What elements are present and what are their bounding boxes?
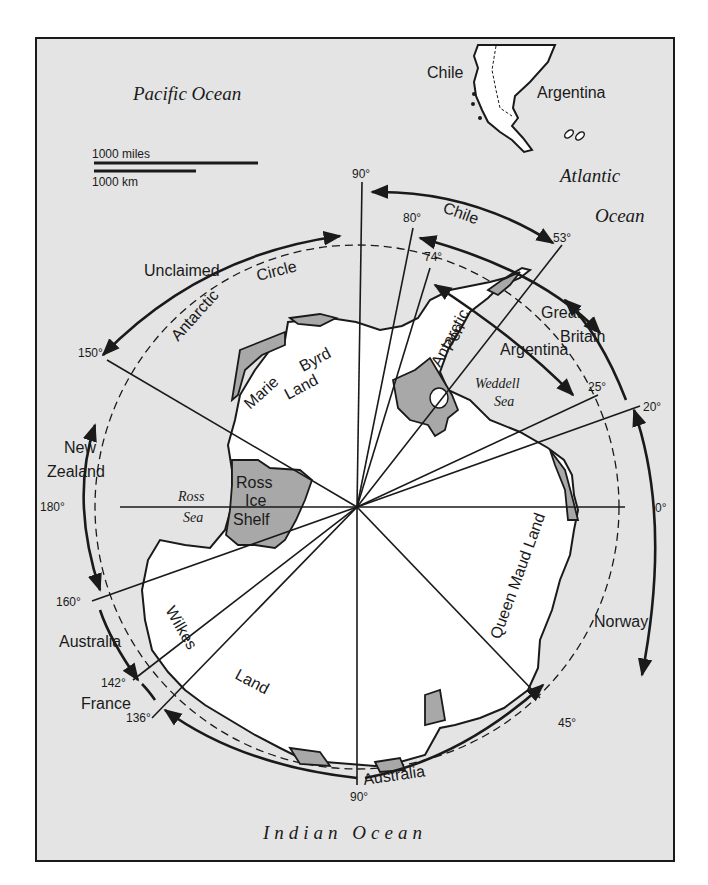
meridian-150-label: 150° bbox=[78, 346, 103, 360]
meridian-0-label: 0° bbox=[655, 501, 667, 515]
indian-ocean-label: Indian Ocean bbox=[262, 822, 427, 843]
ross-sea-label-1: Ross bbox=[177, 489, 205, 504]
meridian-25-label: 25° bbox=[588, 380, 606, 394]
scale-miles-label: 1000 miles bbox=[92, 147, 150, 161]
meridian-80-label: 80° bbox=[403, 211, 421, 225]
claim-new-zealand-label-2: Zealand bbox=[47, 463, 105, 480]
claim-argentina-label: Argentina bbox=[500, 341, 569, 358]
weddell-sea-label-1: Weddell bbox=[475, 376, 520, 391]
atlantic-ocean-label-2: Ocean bbox=[595, 205, 645, 226]
scale-km-label: 1000 km bbox=[92, 175, 138, 189]
antarctic-circle-label-2: Circle bbox=[255, 257, 299, 283]
meridian-160-label: 160° bbox=[56, 595, 81, 609]
ross-sea-label-2: Sea bbox=[183, 510, 203, 525]
meridian-180-label: 180° bbox=[40, 500, 65, 514]
claim-unclaimed-label: Unclaimed bbox=[144, 262, 220, 279]
weddell-sea-label-2: Sea bbox=[494, 394, 514, 409]
meridian-20-label: 20° bbox=[643, 400, 661, 414]
meridian-136-label: 136° bbox=[126, 711, 151, 725]
claim-chile-label: Chile bbox=[441, 199, 481, 227]
claim-great-britain-label-1: Great bbox=[541, 304, 582, 321]
claim-australia-west-label: Australia bbox=[59, 633, 121, 650]
meridian-74-label: 74° bbox=[424, 250, 442, 264]
antarctica-claims-map: 1000 miles 1000 km Pacific Ocean Atlanti… bbox=[0, 0, 708, 885]
meridian-53-label: 53° bbox=[553, 231, 571, 245]
atlantic-ocean-label-1: Atlantic bbox=[558, 165, 621, 186]
ross-ice-shelf-label-2: Ice bbox=[245, 492, 266, 509]
scale-bar: 1000 miles 1000 km bbox=[92, 147, 258, 189]
claim-norway-label: Norway bbox=[594, 613, 648, 630]
meridian-142-label: 142° bbox=[101, 676, 126, 690]
ross-ice-shelf-label-1: Ross bbox=[236, 474, 272, 491]
claim-france-label: France bbox=[81, 695, 131, 712]
chile-country-label: Chile bbox=[427, 64, 464, 81]
meridian-90n-label: 90° bbox=[352, 167, 370, 181]
meridian-90s-label: 90° bbox=[350, 790, 368, 804]
ross-ice-shelf-label-3: Shelf bbox=[233, 511, 270, 528]
pacific-ocean-label: Pacific Ocean bbox=[132, 83, 241, 104]
claim-new-zealand-label-1: New bbox=[64, 439, 96, 456]
meridian-45-label: 45° bbox=[558, 716, 576, 730]
argentina-country-label: Argentina bbox=[537, 84, 606, 101]
